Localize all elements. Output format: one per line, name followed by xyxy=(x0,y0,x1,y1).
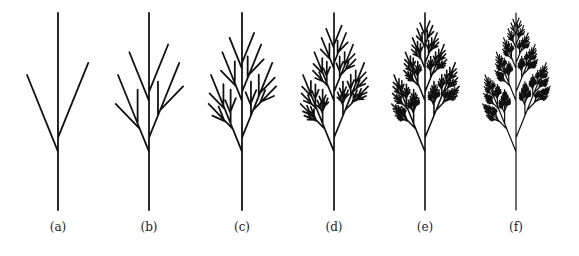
tree-panel-d xyxy=(301,13,368,210)
panel-label-d: (d) xyxy=(314,219,354,235)
tree-panel-f xyxy=(483,13,550,210)
tree-c-branches xyxy=(209,13,276,210)
tree-b-branches xyxy=(116,13,183,210)
tree-a-branches xyxy=(27,13,88,210)
panel-label-c: (c) xyxy=(222,219,262,235)
tree-panel-a xyxy=(27,13,88,210)
tree-d-branches xyxy=(301,13,368,210)
panel-label-b: (b) xyxy=(129,219,169,235)
tree-e-branches xyxy=(392,13,459,210)
panel-label-a: (a) xyxy=(38,219,78,235)
panel-label-f: (f) xyxy=(496,219,536,235)
tree-panel-b xyxy=(116,13,183,210)
tree-f-branches xyxy=(483,13,550,210)
tree-panel-c xyxy=(209,13,276,210)
fractal-tree-figure xyxy=(0,0,579,256)
panel-label-e: (e) xyxy=(405,219,445,235)
tree-panel-e xyxy=(392,13,459,210)
